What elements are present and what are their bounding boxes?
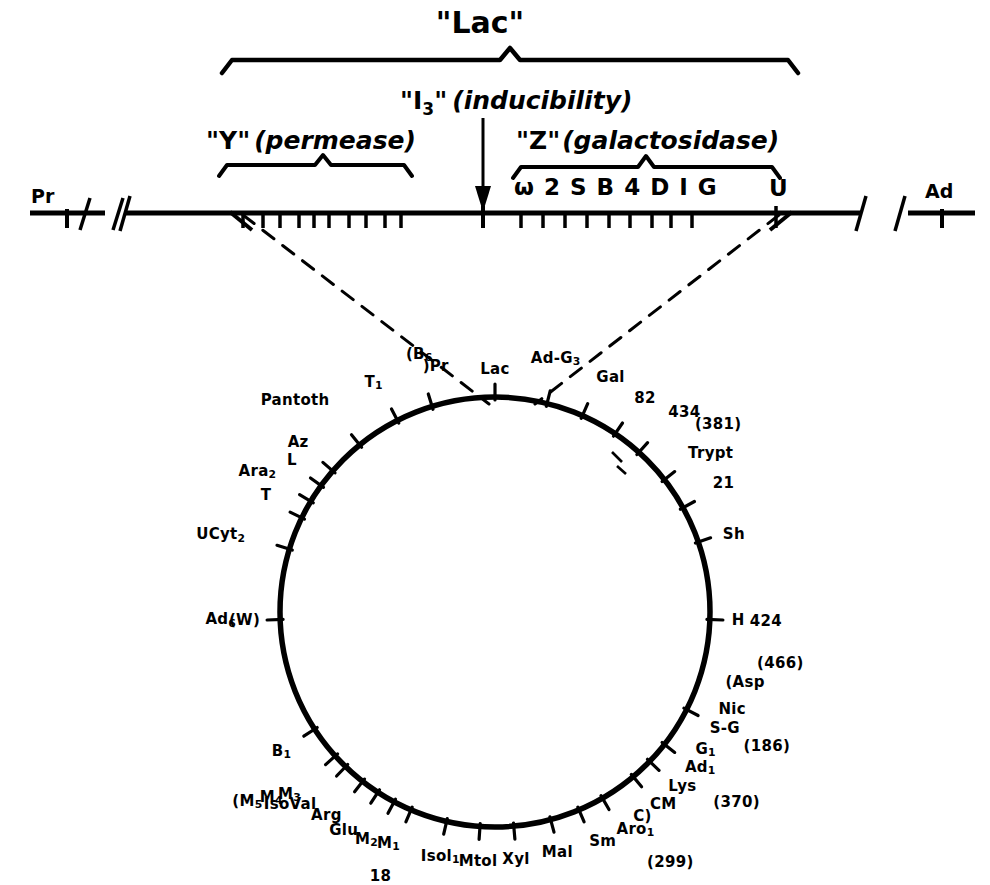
circular-marker-Ara-43: Ara2	[239, 463, 277, 480]
inducibility-arrow	[475, 118, 491, 212]
z-gene-label: "Z"(galactosidase)	[516, 128, 779, 153]
phage-site-connectors	[612, 452, 626, 474]
circular-marker-424-9: 424	[750, 613, 782, 628]
circular-marker-label: H	[732, 611, 745, 629]
circular-marker-label: 21	[713, 474, 734, 492]
circular-marker-Lys-19: Lys	[668, 779, 696, 794]
circular-marker-label: 18	[370, 867, 391, 885]
circular-marker-Pr-49: )Pr	[423, 359, 449, 374]
circular-marker-UCyt-41: UCyt2	[196, 527, 245, 544]
circular-marker-Aro-22: Aro1	[617, 822, 655, 839]
circular-marker-M-35: (M5	[232, 794, 262, 811]
circular-marker-label: (370)	[713, 793, 760, 811]
circular-map-ticks	[267, 384, 723, 839]
circular-marker-CM-20: CM	[650, 797, 677, 812]
circular-marker-label: Lys	[668, 777, 696, 795]
circular-marker-label: Sm	[589, 832, 616, 850]
inducibility-quote: "	[434, 86, 447, 115]
circular-marker-label: Ad	[685, 758, 708, 776]
circular-marker-label: Ad	[205, 610, 228, 628]
circular-marker-82-3: 82	[634, 391, 655, 406]
circular-marker-label: L	[287, 451, 297, 469]
circular-marker-subscript: 3	[293, 791, 301, 804]
linear-site-1: 2	[544, 174, 563, 200]
linear-site-2: S	[570, 174, 590, 200]
circular-marker-M-30: M2	[355, 832, 378, 849]
circular-chromosome	[280, 397, 710, 827]
circular-marker-Pantoth-46: Pantoth	[261, 393, 330, 408]
circular-marker-subscript: 2	[370, 836, 378, 849]
circular-marker-label: (M	[232, 792, 254, 810]
circular-marker-L-44: L	[287, 453, 297, 468]
circular-marker-subscript: 1	[375, 379, 383, 392]
circular-marker-Az-45: Az	[288, 435, 309, 450]
circular-tick-39	[267, 619, 283, 620]
linear-marker-pr: Pr	[31, 187, 54, 206]
circular-marker-Nic-13: Nic	[718, 702, 746, 717]
circular-marker-T-42: T	[261, 488, 272, 503]
circular-marker-subscript: 1	[283, 749, 291, 762]
lac-bracket	[222, 48, 798, 73]
circular-marker-subscript: 1	[708, 747, 716, 760]
circular-marker-Gal-2: Gal	[596, 370, 624, 385]
circular-marker-299-23: (299)	[647, 855, 694, 870]
z-gene-qualifier: (galactosidase)	[562, 126, 779, 155]
circular-marker-label: Sh	[723, 524, 745, 542]
circular-marker-label: M	[260, 788, 275, 806]
circular-marker-label: Nic	[718, 700, 746, 718]
circular-marker-label: (299)	[647, 853, 694, 871]
circular-marker-label: M	[377, 834, 392, 852]
linear-site-3: B	[597, 174, 618, 200]
linear-ticks-right	[521, 206, 776, 228]
linear-ticks-left	[243, 214, 401, 228]
inducibility-subscript: 3	[422, 99, 434, 119]
circular-marker-label: Mal	[542, 843, 573, 861]
circular-marker-label: (466)	[757, 653, 804, 671]
circular-tick-27	[479, 824, 480, 840]
circular-marker-label: M	[278, 785, 293, 803]
circular-marker-subscript: 2	[238, 531, 246, 544]
circular-marker-381-5: (381)	[695, 417, 742, 432]
circular-marker-label: B	[272, 742, 284, 760]
circular-marker-label: Lac	[480, 360, 509, 378]
circular-marker-Asp-12: (Asp	[725, 675, 764, 690]
circular-marker-label: (186)	[744, 737, 791, 755]
linear-site-0: ω	[514, 174, 537, 200]
linear-site-7: G	[698, 174, 720, 200]
circular-marker-label: )Pr	[423, 357, 449, 375]
circular-marker-label: Ad-G	[531, 349, 573, 367]
y-bracket	[219, 155, 412, 176]
circular-marker-W-40: (W)	[229, 613, 260, 628]
inducibility-qualifier: (inducibility)	[452, 86, 632, 115]
circular-marker-label: Az	[288, 433, 309, 451]
circular-marker-subscript: 1	[647, 827, 655, 840]
circular-marker-label: UCyt	[196, 525, 237, 543]
y-gene-symbol: "Y"	[206, 126, 250, 155]
circular-marker-Mtol-27: Mtol	[459, 854, 498, 869]
circular-marker-label: Aro	[617, 820, 647, 838]
circular-marker-subscript: 1	[708, 765, 716, 778]
circular-marker-label: Ara	[239, 461, 269, 479]
circular-marker-label: T	[261, 486, 272, 504]
circular-marker-Isol-28: Isol1	[421, 849, 460, 866]
circular-marker-466-11: (466)	[757, 655, 804, 670]
y-gene-qualifier: (permease)	[254, 126, 416, 155]
circular-marker-G-16: G1	[695, 742, 715, 759]
circular-marker-Xyl-26: Xyl	[502, 852, 529, 867]
circular-marker-label: (Asp	[725, 673, 764, 691]
circular-marker-subscript: 1	[392, 840, 400, 853]
z-gene-symbol: "Z"	[516, 126, 560, 155]
circular-marker-label: Xyl	[502, 850, 529, 868]
circular-marker-M-37: M3	[278, 787, 301, 804]
y-gene-label: "Y"(permease)	[206, 128, 416, 153]
circular-marker-label: (381)	[695, 415, 742, 433]
inducibility-symbol: "I	[400, 86, 422, 115]
linear-chromosome-axis	[30, 196, 975, 231]
circular-marker-21-7: 21	[713, 476, 734, 491]
linear-site-markers: ω2SB4DIG	[514, 176, 727, 199]
circular-marker-label: Trypt	[688, 444, 733, 462]
circular-marker-label: G	[695, 740, 708, 758]
expansion-leader-lines	[243, 215, 779, 404]
circular-marker-Trypt-6: Trypt	[688, 446, 733, 461]
